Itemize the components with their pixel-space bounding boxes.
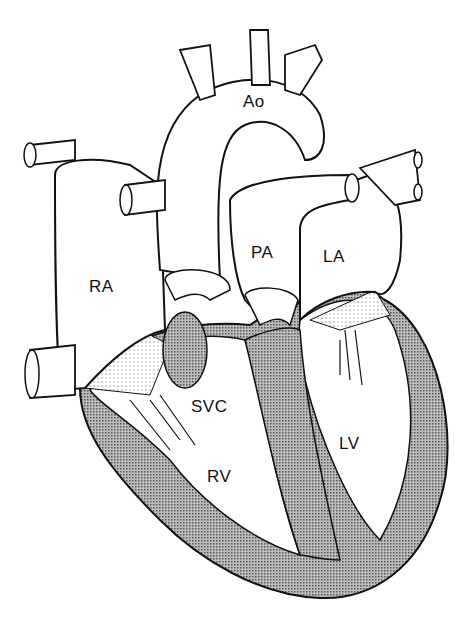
- pulmonary-valve-cusps: [245, 288, 298, 325]
- aortic-branch-2: [250, 30, 270, 85]
- aortic-branch-1: [180, 45, 215, 100]
- heart-diagram: [0, 0, 472, 626]
- aortic-branch-3: [285, 45, 322, 95]
- label-ra: RA: [89, 277, 114, 297]
- label-la: LA: [323, 247, 345, 267]
- septal-opening: [163, 312, 207, 388]
- label-svc: SVC: [191, 397, 227, 417]
- label-pa: PA: [251, 243, 273, 263]
- label-ao: Ao: [243, 92, 265, 112]
- vena-cava-upper: [30, 140, 75, 165]
- label-rv: RV: [207, 467, 231, 487]
- label-lv: LV: [339, 434, 360, 454]
